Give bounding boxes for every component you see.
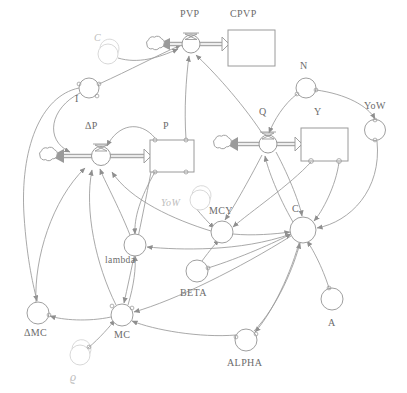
link-mcy-to-c	[233, 232, 290, 235]
stock-p[interactable]	[150, 140, 194, 172]
aux-i[interactable]	[79, 78, 99, 98]
link-c-to-q	[265, 156, 293, 222]
stocks	[150, 30, 348, 172]
link-n-to-q	[269, 94, 297, 133]
label-yow-ghost: YoW	[161, 197, 180, 208]
label-n: N	[300, 60, 308, 71]
aux-yow-right[interactable]	[365, 120, 386, 141]
link-alpha-to-mc	[132, 321, 236, 336]
label-beta: BETA	[180, 287, 207, 298]
auxiliaries	[27, 78, 386, 351]
aux-delta-mc[interactable]	[27, 302, 49, 324]
label-pvp: PVP	[180, 8, 200, 19]
link-deltamc-to-deltap	[36, 168, 85, 302]
aux-mc[interactable]	[111, 304, 133, 326]
diagram-svg	[0, 0, 407, 393]
label-yow-right: YoW	[364, 100, 386, 111]
label-a: A	[328, 317, 336, 328]
label-lambda: lambda	[105, 255, 135, 265]
label-alpha: ALPHA	[227, 357, 262, 368]
aux-lambda[interactable]	[124, 234, 146, 256]
aux-alpha[interactable]	[235, 329, 257, 351]
link-lambda-to-deltap	[100, 169, 130, 235]
stock-cpvp[interactable]	[228, 30, 275, 66]
label-mcy: MCY	[209, 205, 233, 216]
valve-deltap[interactable]	[92, 144, 111, 166]
aux-beta[interactable]	[186, 260, 208, 282]
aux-c[interactable]	[290, 217, 316, 243]
label-q: Q	[259, 106, 267, 117]
link-rho-to-mc	[88, 320, 115, 348]
label-delta-p: ΔP	[85, 120, 98, 131]
link-p-to-deltap	[107, 127, 155, 146]
valve-q[interactable]	[259, 132, 277, 153]
link-y-to-c	[314, 162, 339, 221]
cloud-deltap	[40, 147, 58, 161]
link-mc-to-deltap	[89, 170, 116, 305]
diagram-canvas: PVP CPVP C I ΔP P Q Y N YoW YoW MCY C la…	[0, 0, 407, 393]
label-delta-mc: ΔMC	[24, 327, 47, 338]
label-rho: ϱ	[70, 370, 77, 385]
link-p-to-pvp	[185, 56, 189, 139]
link-alpha-to-c	[254, 243, 300, 331]
cloud-q	[214, 135, 232, 149]
link-a-to-c	[307, 241, 329, 288]
label-cpvp: CPVP	[230, 8, 257, 19]
label-c-ghost: C	[94, 32, 101, 43]
cloud-pvp	[147, 36, 165, 50]
aux-mcy[interactable]	[211, 221, 233, 243]
link-q-to-pvp	[196, 55, 262, 133]
clouds	[40, 36, 232, 161]
link-mc-to-deltamc	[50, 316, 111, 320]
label-mc: MC	[114, 329, 130, 340]
aux-yow-ghost[interactable]	[190, 190, 210, 210]
stock-y[interactable]	[301, 128, 348, 161]
link-i-to-deltamc	[23, 88, 79, 301]
aux-c-ghost[interactable]	[98, 44, 118, 64]
link-beta-to-mcy	[202, 240, 219, 261]
label-y: Y	[314, 106, 322, 117]
label-i: I	[75, 93, 79, 104]
aux-a[interactable]	[321, 288, 343, 310]
valve-pvp[interactable]	[182, 33, 200, 53]
label-c-hub: C	[292, 203, 299, 214]
label-p: P	[163, 120, 169, 131]
link-c-to-alpha	[255, 243, 299, 332]
